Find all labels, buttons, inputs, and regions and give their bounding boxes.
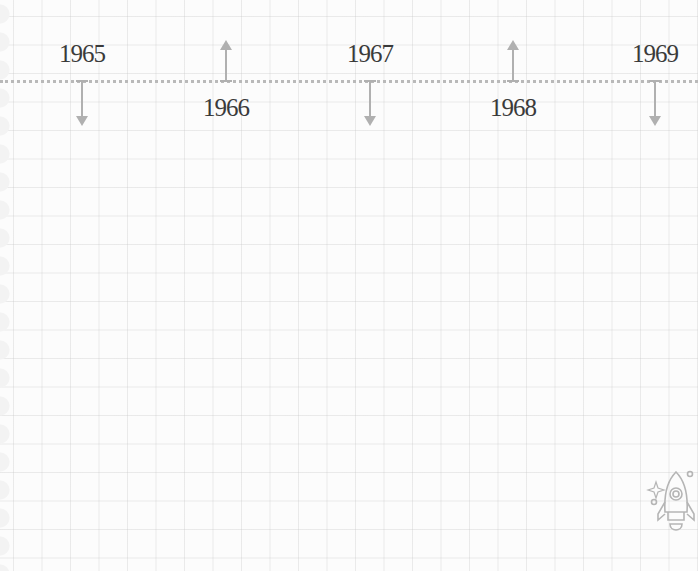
year-label: 1965 [59,40,105,68]
timeline-axis [0,80,698,83]
arrow-stem [81,81,83,116]
grid-paper-background [0,0,698,571]
arrow-up-icon [507,40,519,50]
arrow-stem [369,81,371,116]
arrow-tick [507,80,519,82]
arrow-stem [225,50,227,81]
arrow-stem [512,50,514,81]
year-label: 1967 [347,40,393,68]
arrow-down-icon [649,116,661,126]
arrow-down-icon [364,116,376,126]
arrow-tick [220,80,232,82]
year-label: 1968 [490,94,536,122]
rocket-icon [646,468,698,548]
year-label: 1969 [632,40,678,68]
arrow-stem [654,81,656,116]
year-label: 1966 [203,94,249,122]
arrow-up-icon [220,40,232,50]
arrow-down-icon [76,116,88,126]
scalloped-edge [0,0,14,571]
